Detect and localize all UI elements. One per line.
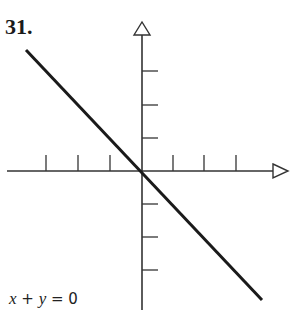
problem-number: 31. — [5, 14, 33, 40]
equation-plus: + — [17, 290, 39, 308]
x-ticks — [46, 155, 236, 171]
equation-rest: = 0 — [46, 290, 78, 308]
graph — [0, 0, 294, 313]
equation-label: x + y = 0 — [9, 289, 78, 309]
y-axis-arrow-icon — [134, 22, 150, 35]
equation-x: x — [9, 289, 17, 308]
x-axis-arrow-icon — [273, 164, 288, 178]
graph-line — [26, 50, 262, 300]
